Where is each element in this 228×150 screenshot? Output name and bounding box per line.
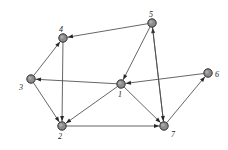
arrowhead-5-to-7 <box>161 116 165 121</box>
graph-edge-7-to-6 <box>167 77 205 123</box>
graph-node-label-3: 3 <box>19 84 23 92</box>
arrowhead-5-to-4 <box>68 34 73 38</box>
graph-node-highlight-2 <box>59 123 63 127</box>
graph-node-highlight-1 <box>118 81 122 85</box>
graph-node-label-2: 2 <box>58 133 62 141</box>
arrowhead-2-to-7 <box>154 124 159 128</box>
graph-node-label-1: 1 <box>118 91 122 99</box>
directed-graph-figure: 1234567 <box>0 0 228 150</box>
arrowhead-1-to-2 <box>66 119 71 124</box>
arrowhead-1-to-3 <box>36 78 41 82</box>
node-layer <box>27 19 212 130</box>
graph-edge-3-to-2 <box>34 83 60 122</box>
graph-edge-4-to-2 <box>62 43 63 122</box>
graph-edge-3-to-4 <box>34 42 60 76</box>
graph-edge-6-to-1 <box>126 74 204 84</box>
arrowhead-6-to-1 <box>126 81 131 85</box>
arrowhead-4-to-2 <box>60 116 64 121</box>
graph-node-label-7: 7 <box>171 131 175 139</box>
graph-node-label-4: 4 <box>59 26 63 34</box>
graph-node-highlight-4 <box>60 35 64 39</box>
graph-edge-1-to-3 <box>36 79 117 83</box>
graph-node-highlight-7 <box>161 123 165 127</box>
graph-node-label-5: 5 <box>149 11 153 19</box>
graph-edge-1-to-2 <box>66 87 117 124</box>
arrowhead-5-to-1 <box>123 74 127 80</box>
graph-canvas <box>0 0 228 150</box>
graph-edge-5-to-7 <box>153 28 164 122</box>
graph-edge-5-to-4 <box>68 24 148 37</box>
graph-node-highlight-5 <box>149 20 153 24</box>
arrowhead-3-to-2 <box>55 117 60 122</box>
graph-edge-1-to-7 <box>124 87 160 122</box>
graph-node-label-6: 6 <box>215 71 219 79</box>
graph-node-highlight-6 <box>205 70 209 74</box>
graph-edge-5-to-1 <box>123 27 150 80</box>
graph-node-highlight-3 <box>28 76 32 80</box>
